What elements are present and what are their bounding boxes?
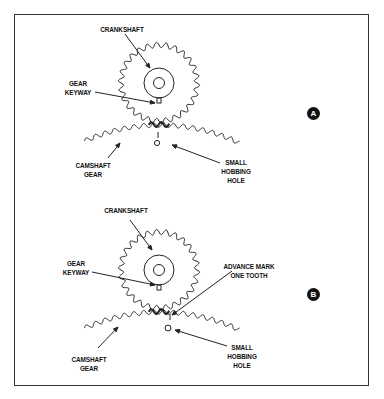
- arrow-crankshaft-b: [130, 220, 152, 250]
- arrow-hobbing-b-head: [175, 329, 180, 333]
- label-crankshaft-a: CRANKSHAFT: [97, 25, 148, 34]
- label-small-hobbing-hole-b: SMALL HOBBING HOLE: [225, 343, 259, 370]
- label-crankshaft-b: CRANKSHAFT: [101, 206, 152, 215]
- crankshaft-gear: [118, 42, 199, 123]
- small-hobbing-hole-a: [154, 140, 159, 145]
- arrow-keyway-b-head: [150, 282, 155, 286]
- gear-diagram-drawing: [0, 0, 384, 399]
- arrow-hobbing-b: [175, 330, 227, 346]
- arrow-hobbing-a-head: [172, 145, 177, 149]
- camshaft-gear-arc: [85, 310, 240, 330]
- label-advance-mark-b: ADVANCE MARK ONE TOOTH: [223, 262, 276, 280]
- small-hobbing-hole-b: [165, 325, 171, 331]
- label-camshaft-gear-b: CAMSHAFT GEAR: [71, 355, 107, 373]
- label-gear-keyway-a: GEAR KEYWAY: [63, 79, 94, 97]
- crankshaft-gear: [118, 229, 199, 310]
- crankshaft-bore: [154, 78, 165, 89]
- camshaft-gear-arc: [85, 123, 240, 143]
- label-gear-keyway-b: GEAR KEYWAY: [61, 259, 92, 277]
- label-small-hobbing-hole-a: SMALL HOBBING HOLE: [219, 158, 253, 185]
- crankshaft-bore: [154, 265, 165, 276]
- gear-keyway: [157, 98, 161, 103]
- crankshaft-hub: [144, 68, 174, 98]
- arrow-hobbing-a: [172, 145, 220, 163]
- panel-badge-b: B: [307, 288, 320, 301]
- crankshaft-hub: [144, 255, 174, 285]
- label-camshaft-gear-a: CAMSHAFT GEAR: [75, 161, 111, 179]
- gear-keyway: [157, 285, 161, 290]
- arrow-keyway-a-head: [150, 100, 155, 104]
- panel-badge-a: A: [307, 107, 320, 120]
- arrow-crankshaft-a: [125, 34, 150, 68]
